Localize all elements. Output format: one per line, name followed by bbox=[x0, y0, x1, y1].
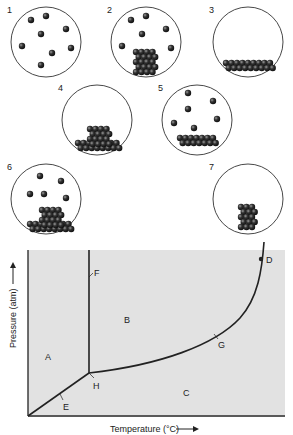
point-g-label: G bbox=[218, 340, 225, 350]
point-f-label: F bbox=[94, 268, 100, 278]
region-c-label: C bbox=[183, 388, 190, 398]
region-a-label: A bbox=[45, 352, 51, 362]
point-d-label: D bbox=[266, 255, 273, 265]
critical-point bbox=[259, 257, 263, 261]
x-axis-label: Temperature (°C) bbox=[110, 424, 179, 434]
y-axis-label: Pressure (atm) bbox=[8, 288, 18, 348]
point-h-label: H bbox=[93, 381, 100, 391]
phase-diagram: A B C D E F G H Temperature (°C) Pressur… bbox=[0, 0, 293, 435]
phase-diagram-background bbox=[28, 250, 285, 415]
point-e-label: E bbox=[63, 402, 69, 412]
x-axis-arrow-icon bbox=[193, 426, 199, 432]
region-b-label: B bbox=[124, 315, 130, 325]
y-axis-arrow-icon bbox=[10, 262, 16, 268]
